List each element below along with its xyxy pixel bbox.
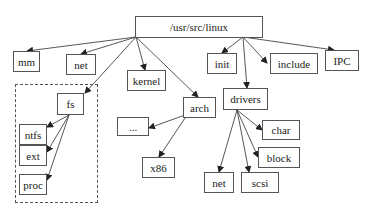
node-block: block [258, 147, 300, 168]
node-kernel: kernel [127, 70, 166, 91]
edge-arrow [159, 115, 187, 157]
node-arch: arch [183, 97, 216, 118]
node-char: char [262, 120, 300, 140]
edge-arrow [219, 110, 237, 172]
edge-arrow [222, 37, 243, 53]
node-ext: ext [19, 145, 47, 166]
edge-arrow [243, 37, 334, 50]
edge-arrow [237, 110, 262, 130]
node-x86: x86 [142, 157, 175, 178]
node-IPC: IPC [325, 50, 359, 71]
node-ntfs: ntfs [19, 124, 47, 145]
edge-arrow [237, 110, 258, 157]
node-proc: proc [19, 174, 47, 195]
node-net: net [66, 54, 96, 75]
node-include: include [270, 53, 318, 74]
node-dnet: net [204, 172, 234, 193]
edge-arrow [243, 37, 247, 88]
node-drivers: drivers [223, 88, 268, 110]
edge-arrow [27, 37, 136, 51]
node-mm: mm [13, 51, 40, 72]
node-init: init [207, 53, 237, 74]
linux-source-tree-diagram: /usr/src/linuxmmnetkernelinitincludeIPCf… [0, 0, 373, 214]
node-root: /usr/src/linux [135, 16, 263, 38]
node-ellipsis: ... [117, 117, 149, 136]
node-scsi: scsi [241, 172, 279, 193]
edge-arrow [243, 37, 267, 63]
edge-arrow [237, 110, 249, 172]
node-fs: fs [57, 93, 84, 115]
